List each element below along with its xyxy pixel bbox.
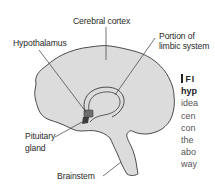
caption-line: con xyxy=(181,122,215,134)
label-brainstem: Brainstem xyxy=(57,171,95,181)
caption-line: hyp xyxy=(181,85,215,97)
figure-caption: FI hyp idea cen con the abo way xyxy=(181,73,215,171)
label-limbic-line1: Portion of xyxy=(159,31,195,41)
brain-outline xyxy=(35,46,175,176)
label-pituitary-line2: gland xyxy=(25,143,46,153)
caption-heading: FI xyxy=(181,73,215,85)
label-pituitary-line1: Pituitary xyxy=(25,131,55,141)
caption-bar xyxy=(181,74,183,83)
label-limbic-line2: limbic system xyxy=(159,41,209,51)
label-cerebral-cortex: Cerebral cortex xyxy=(73,16,130,26)
label-hypothalamus: Hypothalamus xyxy=(13,38,67,48)
brain-figure: Cerebral cortex Portion of limbic system… xyxy=(0,0,215,190)
caption-line: abo xyxy=(181,146,215,158)
pituitary-shape xyxy=(82,117,89,124)
caption-line: the xyxy=(181,134,215,146)
caption-line: cen xyxy=(181,110,215,122)
leader-brainstem xyxy=(103,162,121,176)
caption-line: idea xyxy=(181,97,215,109)
caption-line: way xyxy=(181,158,215,170)
